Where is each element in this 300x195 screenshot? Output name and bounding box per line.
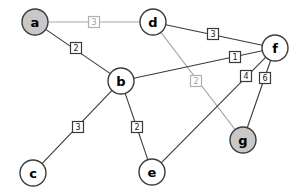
edge-weight-b-e-text: 2 [134, 123, 139, 132]
node-b[interactable]: b [108, 68, 134, 94]
edge-labels-layer: 323213246 [71, 17, 271, 133]
node-g[interactable]: g [230, 127, 256, 153]
node-c[interactable]: c [20, 160, 46, 186]
edge-weight-b-f-text: 1 [232, 53, 237, 62]
edge-weight-d-f-text: 3 [210, 30, 215, 39]
node-d-label: d [148, 15, 157, 30]
node-a-label: a [31, 15, 40, 30]
edge-weight-f-g-text: 6 [262, 74, 267, 83]
edge-weight-a-b-text: 2 [73, 44, 78, 53]
node-e-label: e [148, 165, 157, 180]
edge-weight-b-e[interactable]: 2 [132, 122, 143, 133]
nodes-layer: adfbgce [20, 9, 288, 186]
node-b-label: b [116, 74, 125, 89]
node-e[interactable]: e [139, 159, 165, 185]
edge-weight-a-b[interactable]: 2 [71, 43, 82, 54]
node-f-label: f [272, 41, 278, 56]
edge-weight-a-d-text: 3 [91, 18, 96, 27]
weighted-graph-diagram: adfbgce 323213246 [0, 0, 300, 195]
node-f[interactable]: f [262, 35, 288, 61]
node-a[interactable]: a [22, 9, 48, 35]
edge-weight-f-g[interactable]: 6 [260, 73, 271, 84]
edge-weight-d-g[interactable]: 2 [191, 76, 202, 87]
edge-weight-d-g-text: 2 [193, 77, 198, 86]
edge-weight-e-f-text: 4 [243, 72, 248, 81]
node-g-label: g [238, 133, 247, 148]
edge-weight-a-d[interactable]: 3 [89, 17, 100, 28]
edge-weight-b-f[interactable]: 1 [230, 52, 241, 63]
edge-weight-e-f[interactable]: 4 [241, 71, 252, 82]
node-d[interactable]: d [140, 9, 166, 35]
edge-weight-b-c[interactable]: 3 [73, 122, 84, 133]
edge-weight-b-c-text: 3 [75, 123, 80, 132]
edge-weight-d-f[interactable]: 3 [208, 29, 219, 40]
node-c-label: c [29, 166, 37, 181]
